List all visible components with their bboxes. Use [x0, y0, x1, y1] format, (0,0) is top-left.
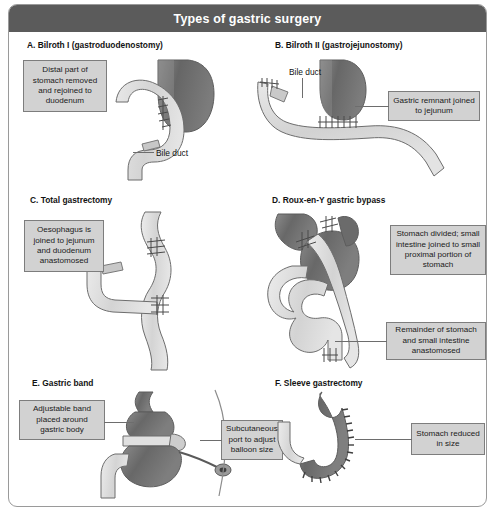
- callout-e2: Subcutaneous port to adjust balloon size: [221, 420, 283, 460]
- label-b-bile-duct: Bile duct: [289, 67, 321, 77]
- leader-e1: [104, 422, 134, 423]
- panel-heading-a: A. Bilroth I (gastroduodenostomy): [27, 40, 163, 50]
- label-a-bile-duct: Bile duct: [156, 148, 188, 158]
- panel-heading-d: D. Roux-en-Y gastric bypass: [272, 195, 385, 205]
- callout-a1: Distal part of stomach removed and rejoi…: [23, 60, 107, 112]
- panel-heading-e: E. Gastric band: [32, 378, 93, 388]
- callout-c1: Oesophagus is joined to jejunum and duod…: [24, 220, 104, 272]
- leader-d2: [335, 341, 387, 342]
- leader-b1: [355, 106, 389, 107]
- illustration-sleeve-gastrectomy: [288, 392, 408, 502]
- panel-heading-f: F. Sleeve gastrectomy: [275, 378, 363, 388]
- illustration-bilroth-1: [110, 58, 240, 183]
- callout-d2: Remainder of stomach and small intestine…: [386, 322, 486, 360]
- leader-b-bile-duct: [302, 78, 303, 98]
- callout-d1: Stomach divided; small intestine joined …: [390, 225, 486, 275]
- page-title: Types of gastric surgery: [174, 12, 322, 26]
- callout-b1: Gastric remnant joined to jejunum: [388, 91, 480, 121]
- leader-f1: [355, 439, 412, 440]
- callout-f1: Stomach reduced in size: [411, 423, 485, 455]
- panel-heading-c: C. Total gastrectomy: [30, 195, 112, 205]
- gastric-surgery-figure: Types of gastric surgery A. Bilroth I (g…: [0, 0, 495, 515]
- figure-title-bar: Types of gastric surgery: [9, 5, 486, 32]
- leader-a-bile-duct: [133, 152, 154, 153]
- illustration-roux-en-y: [262, 212, 392, 372]
- leader-e2: [200, 440, 222, 441]
- callout-e1: Adjustable band placed around gastric bo…: [19, 400, 105, 440]
- panel-heading-b: B. Bilroth II (gastrojejunostomy): [275, 40, 403, 50]
